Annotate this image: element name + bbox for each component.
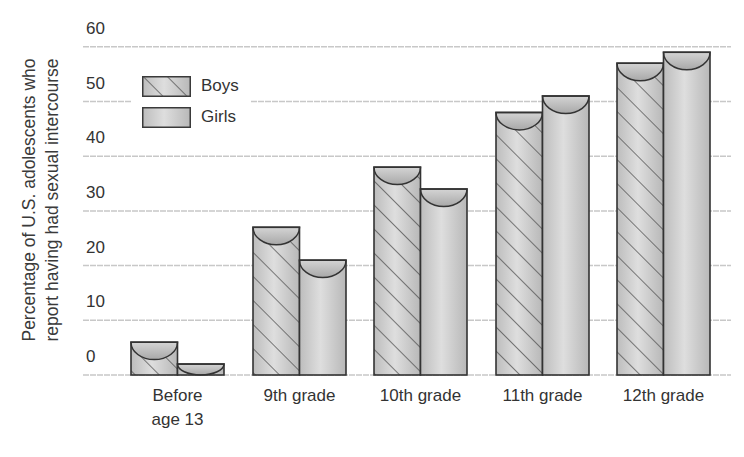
legend-item-boys: Boys [142, 75, 239, 97]
bar-boys [131, 342, 178, 375]
bar-boys [374, 167, 421, 375]
x-tick-label: 9th grade [240, 384, 360, 408]
bar-boys [617, 63, 664, 375]
legend: Boys Girls [132, 68, 250, 134]
bar-girls [421, 189, 468, 375]
bar-girls [300, 260, 347, 375]
y-axis-title-line-1: Percentage of U.S. adolescents who [18, 20, 41, 380]
legend-item-girls: Girls [142, 106, 236, 128]
legend-label-boys: Boys [201, 76, 239, 96]
y-tick-label: 0 [86, 347, 95, 367]
y-tick-label: 40 [86, 128, 105, 148]
legend-swatch-hatched-icon [142, 76, 191, 97]
x-tick-label: 10th grade [361, 384, 481, 408]
bar-boys [253, 227, 300, 375]
y-tick-label: 30 [86, 183, 105, 203]
bar-boys [496, 112, 543, 375]
y-axis-title-line-2: report having had sexual intercourse [41, 20, 64, 380]
x-tick-label: 12th grade [604, 384, 724, 408]
bar-girls [664, 52, 711, 375]
legend-label-girls: Girls [201, 107, 236, 127]
x-tick-label: 11th grade [483, 384, 603, 408]
bar-girls [543, 96, 590, 375]
legend-swatch-solid-icon [142, 107, 191, 128]
y-tick-label: 50 [86, 74, 105, 94]
y-tick-label: 10 [86, 292, 105, 312]
y-axis-title: Percentage of U.S. adolescents who repor… [18, 20, 64, 380]
bar-girls [178, 364, 225, 375]
y-tick-label: 20 [86, 238, 105, 258]
x-tick-label: Before age 13 [118, 384, 238, 432]
y-tick-label: 60 [86, 19, 105, 39]
